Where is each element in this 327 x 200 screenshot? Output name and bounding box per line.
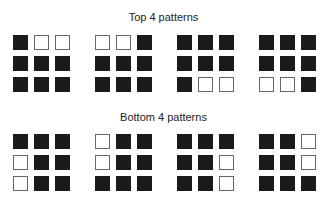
filled-square [55, 155, 70, 170]
filled-square [116, 134, 131, 149]
empty-square [13, 155, 28, 170]
empty-square [116, 35, 131, 50]
filled-square [259, 155, 274, 170]
filled-square [219, 134, 234, 149]
top-pattern-2 [95, 35, 151, 91]
empty-square [219, 77, 234, 92]
filled-square [301, 176, 316, 191]
empty-square [301, 134, 316, 149]
filled-square [177, 56, 192, 71]
filled-square [55, 77, 70, 92]
filled-square [301, 77, 316, 92]
filled-square [280, 56, 295, 71]
empty-square [95, 155, 110, 170]
filled-square [280, 176, 295, 191]
filled-square [280, 134, 295, 149]
filled-square [13, 56, 28, 71]
filled-square [55, 134, 70, 149]
empty-square [198, 77, 213, 92]
filled-square [219, 56, 234, 71]
filled-square [137, 77, 152, 92]
bottom-pattern-3 [177, 134, 233, 190]
empty-square [301, 155, 316, 170]
filled-square [177, 35, 192, 50]
filled-square [280, 155, 295, 170]
empty-square [219, 176, 234, 191]
filled-square [95, 176, 110, 191]
empty-square [55, 35, 70, 50]
filled-square [301, 35, 316, 50]
filled-square [137, 35, 152, 50]
filled-square [177, 134, 192, 149]
bottom-pattern-4 [259, 134, 315, 190]
filled-square [198, 56, 213, 71]
filled-square [259, 176, 274, 191]
top-patterns-title: Top 4 patterns [0, 11, 327, 23]
empty-square [219, 155, 234, 170]
bottom-patterns-title: Bottom 4 patterns [0, 111, 327, 123]
filled-square [95, 77, 110, 92]
empty-square [34, 35, 49, 50]
empty-square [95, 35, 110, 50]
filled-square [116, 155, 131, 170]
filled-square [259, 35, 274, 50]
filled-square [198, 134, 213, 149]
filled-square [137, 176, 152, 191]
filled-square [259, 134, 274, 149]
empty-square [280, 77, 295, 92]
filled-square [34, 56, 49, 71]
filled-square [116, 56, 131, 71]
filled-square [137, 56, 152, 71]
filled-square [177, 77, 192, 92]
filled-square [55, 176, 70, 191]
filled-square [259, 56, 274, 71]
filled-square [34, 134, 49, 149]
bottom-pattern-1 [13, 134, 69, 190]
filled-square [198, 176, 213, 191]
filled-square [116, 176, 131, 191]
filled-square [13, 77, 28, 92]
filled-square [177, 176, 192, 191]
bottom-pattern-2 [95, 134, 151, 190]
top-pattern-1 [13, 35, 69, 91]
filled-square [198, 155, 213, 170]
filled-square [34, 155, 49, 170]
empty-square [259, 77, 274, 92]
filled-square [301, 56, 316, 71]
filled-square [34, 176, 49, 191]
filled-square [13, 35, 28, 50]
filled-square [137, 155, 152, 170]
filled-square [219, 35, 234, 50]
top-pattern-3 [177, 35, 233, 91]
filled-square [95, 56, 110, 71]
empty-square [95, 134, 110, 149]
top-pattern-4 [259, 35, 315, 91]
filled-square [13, 134, 28, 149]
filled-square [55, 56, 70, 71]
filled-square [280, 35, 295, 50]
empty-square [13, 176, 28, 191]
filled-square [34, 77, 49, 92]
filled-square [198, 35, 213, 50]
filled-square [116, 77, 131, 92]
filled-square [177, 155, 192, 170]
filled-square [137, 134, 152, 149]
